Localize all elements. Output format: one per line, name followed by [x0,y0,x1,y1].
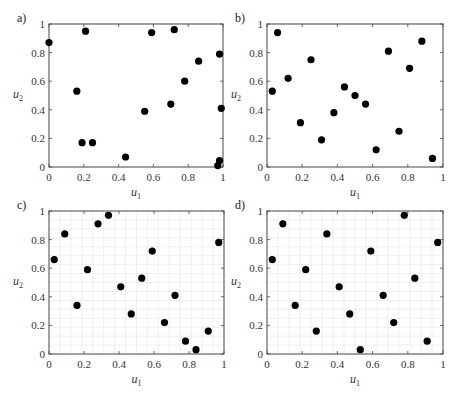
data-point [122,153,129,160]
x-axis-label-subscript: 1 [356,192,360,201]
data-point [269,88,276,95]
scatter-panel-d: 00.20.40.60.8100.20.40.60.81d)u1u2 [231,198,446,388]
x-tick-label: 1 [440,171,446,183]
y-tick-label: 0.2 [249,132,263,144]
data-point [138,275,145,282]
x-tick-label: 1 [220,171,226,183]
data-point [429,155,436,162]
data-point [149,247,156,254]
x-axis-label: u1 [132,372,142,388]
data-point [362,100,369,107]
y-tick-label: 0.6 [31,262,45,274]
y-axis-label: u2 [231,274,241,290]
x-tick-label: 0.6 [147,358,161,370]
data-point [141,108,148,115]
y-tick-label: 1 [258,205,264,217]
y-tick-label: 0.2 [31,319,45,331]
x-tick-label: 0 [264,171,270,183]
data-point [205,328,212,335]
data-point [94,220,101,227]
data-point [61,230,68,237]
y-axis-label-subscript: 2 [237,94,241,103]
data-point [89,139,96,146]
x-tick-label: 0.8 [401,171,415,183]
data-point [418,38,425,45]
y-tick-label: 1 [258,18,264,30]
data-point [307,56,314,63]
data-point [218,105,225,112]
y-tick-label: 1 [40,18,46,30]
data-point [195,58,202,65]
data-point [161,319,168,326]
y-tick-label: 0.6 [249,262,263,274]
x-tick-label: 0.2 [77,171,91,183]
y-tick-label: 1 [40,205,46,217]
data-point [182,338,189,345]
panel-label: b) [235,11,245,25]
x-tick-label: 1 [221,358,227,370]
x-tick-label: 0.2 [295,171,309,183]
y-tick-label: 0.8 [249,234,263,246]
y-tick-label: 0.4 [31,104,45,116]
scatter-panel-c: 00.20.40.60.8100.20.40.60.81c)u1u2 [13,198,227,388]
data-points [45,26,224,169]
x-tick-label: 0.8 [182,358,196,370]
data-point [216,50,223,57]
y-axis-label: u2 [13,87,23,103]
data-points [269,29,436,162]
data-point [318,136,325,143]
panel-label: a) [17,11,26,25]
y-tick-label: 0.4 [249,291,263,303]
x-tick-label: 0.2 [295,358,309,370]
x-tick-label: 1 [440,358,446,370]
figure: 00.20.40.60.8100.20.40.60.81a)u1u200.20.… [0,0,463,396]
grid [49,211,224,354]
x-axis-label: u1 [350,185,360,201]
grid [267,211,443,354]
y-tick-label: 0.6 [31,75,45,87]
y-tick-label: 0 [258,348,264,360]
data-point [171,26,178,33]
data-point [148,29,155,36]
data-point [346,310,353,317]
x-axis-label: u1 [350,372,360,388]
data-point [385,48,392,55]
x-tick-label: 0.4 [112,171,126,183]
y-tick-label: 0 [40,348,46,360]
data-point [341,83,348,90]
y-tick-label: 0.8 [31,47,45,59]
scatter-panel-b: 00.20.40.60.8100.20.40.60.81b)u1u2 [231,11,446,201]
data-point [45,39,52,46]
x-tick-label: 0.4 [331,358,345,370]
y-tick-label: 0.2 [31,132,45,144]
data-point [367,247,374,254]
data-point [373,146,380,153]
data-point [82,28,89,35]
data-point [330,109,337,116]
data-point [336,283,343,290]
data-point [192,346,199,353]
x-tick-label: 0.4 [112,358,126,370]
data-point [117,283,124,290]
y-axis-label: u2 [231,87,241,103]
x-axis-label-subscript: 1 [138,379,142,388]
data-point [424,338,431,345]
y-tick-label: 0.2 [249,319,263,331]
data-point [285,75,292,82]
data-point [274,29,281,36]
panel-label: d) [235,198,245,212]
y-tick-label: 0.4 [249,104,263,116]
data-point [297,119,304,126]
x-tick-label: 0 [264,358,270,370]
y-tick-label: 0.6 [249,75,263,87]
y-tick-label: 0.8 [249,47,263,59]
data-point [292,302,299,309]
data-point [214,162,221,169]
x-tick-label: 0 [46,358,52,370]
x-axis-label-subscript: 1 [137,192,141,201]
data-point [434,239,441,246]
y-axis-label: u2 [13,274,23,290]
data-point [128,310,135,317]
data-point [215,239,222,246]
x-tick-label: 0.8 [401,358,415,370]
